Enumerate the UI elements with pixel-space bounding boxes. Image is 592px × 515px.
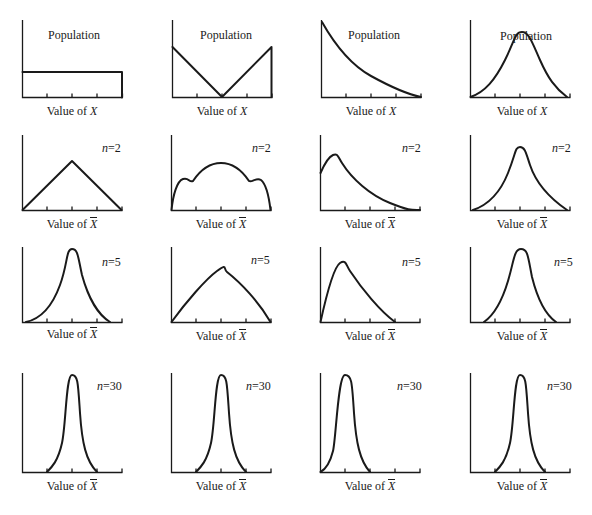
x-bar-variable: X — [388, 329, 395, 343]
x-axis-label-prefix: Value of — [497, 104, 537, 118]
x-axis-label: Value of X — [472, 329, 572, 344]
x-axis-label: Value of X — [320, 217, 420, 232]
panel-n5-normal: n=5 Value of X — [470, 247, 572, 347]
x-axis-label: Value of X — [320, 329, 420, 344]
x-axis-label: Value of X — [320, 479, 420, 494]
sample-size-label: n=5 — [402, 255, 421, 270]
panel-n5-uniform: n=5 Value of X — [22, 247, 124, 347]
sample-size-label: n=2 — [552, 141, 571, 156]
x-bar-variable: X — [388, 479, 395, 493]
panel-population-uniform: Population Value of X — [22, 20, 124, 125]
skewed-density-curve — [321, 154, 421, 210]
x-axis-label: Value of X — [22, 327, 122, 342]
panel-population-v-shaped: Population Value of X — [172, 20, 274, 125]
panel-n2-exponential: n=2 Value of X — [320, 135, 422, 235]
peaked-density-curve — [47, 375, 97, 472]
x-bar-variable: X — [540, 479, 547, 493]
sample-size-label: n=30 — [547, 379, 572, 394]
x-bar-variable: X — [90, 327, 97, 341]
sample-size-label: n=2 — [102, 141, 121, 156]
population-label: Population — [200, 28, 252, 43]
panel-population-normal: Population Value of X — [470, 20, 572, 125]
x-bar-variable: X — [239, 217, 246, 231]
panel-n5-v-shaped: n=5 Value of X — [171, 247, 273, 347]
x-axis-label-prefix: Value of — [197, 104, 237, 118]
population-label: Population — [500, 29, 552, 44]
x-bar-variable: X — [90, 217, 97, 231]
x-axis-label: Value of X — [472, 479, 572, 494]
x-bar-variable: X — [540, 217, 547, 231]
panel-population-exponential: Population Value of X — [321, 20, 423, 125]
sample-size-label: n=30 — [397, 379, 422, 394]
x-axis-label-prefix: Value of — [346, 104, 386, 118]
peaked-density-curve — [321, 375, 371, 472]
x-variable: X — [240, 104, 247, 118]
panel-n30-normal: n=30 Value of X — [470, 373, 572, 503]
sample-size-label: n=2 — [402, 141, 421, 156]
v-shaped-density-curve — [173, 47, 272, 97]
sample-size-label: n=5 — [251, 253, 270, 268]
panel-n2-uniform: n=2 Value of X — [22, 135, 124, 235]
x-axis-label: Value of X — [172, 104, 272, 119]
panel-n30-v-shaped: n=30 Value of X — [171, 373, 273, 503]
panel-n2-normal: n=2 Value of X — [470, 135, 572, 235]
sample-size-label: n=30 — [246, 379, 271, 394]
sample-size-label: n=2 — [252, 141, 271, 156]
population-label: Population — [48, 28, 100, 43]
x-bar-variable: X — [239, 329, 246, 343]
peaked-density-curve — [495, 375, 545, 472]
peaked-density-curve — [196, 375, 246, 472]
x-variable: X — [540, 104, 547, 118]
bimodal-density-curve — [172, 163, 271, 210]
x-axis-label: Value of X — [171, 329, 271, 344]
x-axis-label: Value of X — [22, 217, 122, 232]
x-axis-label: Value of X — [171, 479, 271, 494]
x-axis-label-prefix: Value of — [47, 104, 87, 118]
x-variable: X — [389, 104, 396, 118]
sample-size-label: n=5 — [102, 255, 121, 270]
x-variable: X — [90, 104, 97, 118]
panel-n5-exponential: n=5 Value of X — [320, 247, 422, 347]
mound-density-curve — [172, 267, 271, 322]
x-bar-variable: X — [239, 479, 246, 493]
sample-size-label: n=5 — [554, 255, 573, 270]
panel-n2-v-shaped: n=2 Value of X — [171, 135, 273, 235]
normal-density-curve — [484, 249, 556, 322]
x-axis-label: Value of X — [22, 104, 122, 119]
x-bar-variable: X — [90, 479, 97, 493]
x-bar-variable: X — [388, 217, 395, 231]
x-axis-label: Value of X — [22, 479, 122, 494]
x-bar-variable: X — [540, 329, 547, 343]
normal-density-curve — [473, 147, 567, 210]
panel-n30-exponential: n=30 Value of X — [320, 373, 422, 503]
x-axis-label: Value of X — [472, 104, 572, 119]
x-axis-label: Value of X — [321, 104, 421, 119]
population-label: Population — [348, 28, 400, 43]
skewed-density-curve — [321, 262, 396, 322]
x-axis-label: Value of X — [171, 217, 271, 232]
sample-size-label: n=30 — [97, 379, 122, 394]
near-normal-density-curve — [26, 249, 110, 322]
x-axis-label: Value of X — [472, 217, 572, 232]
panel-n30-uniform: n=30 Value of X — [22, 373, 124, 503]
triangular-density-curve — [23, 161, 122, 210]
